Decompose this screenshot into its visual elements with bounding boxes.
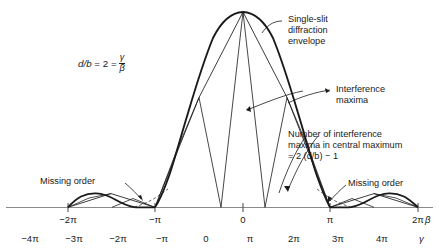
ratio-fraction-denominator: β <box>119 63 124 74</box>
diffraction-interference-figure: d/b = 2 = γ β Single-slit diffraction en… <box>0 0 439 250</box>
interference-maxima-annotation: Interference maxima <box>336 84 385 106</box>
gamma-tick-8: 4π <box>362 233 402 244</box>
missing-right-leader <box>330 185 346 201</box>
ratio-fraction-numerator: γ <box>119 53 124 63</box>
missing-order-left-label: Missing order <box>40 176 95 187</box>
envelope-leader <box>262 21 282 33</box>
beta-tick-3: π <box>310 214 350 225</box>
beta-tick-1: −π <box>135 214 175 225</box>
gamma-tick-1: −3π <box>54 233 94 244</box>
beta-tick-4: 2π <box>398 214 438 225</box>
gamma-tick-5: π <box>230 233 270 244</box>
gamma-tick-3: −π <box>142 233 182 244</box>
beta-axis-symbol: β <box>425 214 430 225</box>
ratio-formula: d/b = 2 = γ β <box>78 53 125 73</box>
gamma-axis-symbol: γ <box>419 233 424 244</box>
gamma-tick-2: −2π <box>98 233 138 244</box>
figure-canvas <box>0 0 439 250</box>
gamma-tick-0: −4π <box>10 233 50 244</box>
ratio-fraction: γ β <box>119 53 124 73</box>
missing-order-right-label: Missing order <box>348 178 403 189</box>
gamma-tick-7: 3π <box>318 233 358 244</box>
leader-lines <box>125 21 346 201</box>
envelope-annotation: Single-slit diffraction envelope <box>288 14 328 48</box>
ratio-formula-prefix: d/b <box>78 58 92 69</box>
beta-tick-0: −2π <box>48 214 88 225</box>
gamma-tick-6: 2π <box>274 233 314 244</box>
gamma-tick-4: 0 <box>186 233 226 244</box>
maxima-count-annotation: Number of interference maxima in central… <box>288 129 402 163</box>
ratio-formula-eq: = 2 = <box>94 58 116 69</box>
beta-tick-2: 0 <box>223 214 263 225</box>
